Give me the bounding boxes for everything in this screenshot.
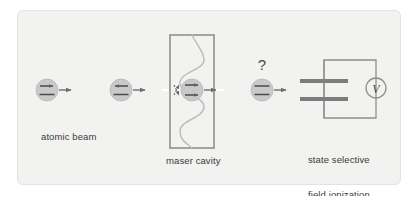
atom-1-body <box>36 79 58 101</box>
caption-state-selective-field-ionization: state selective field ionization <box>308 131 370 196</box>
cavity-transition-dashed-arrows <box>174 85 179 95</box>
figure-canvas: ? V atomic beam maser cavity state selec… <box>0 0 418 196</box>
caption-maser-cavity: maser cavity <box>166 155 221 167</box>
caption-atomic-beam: atomic beam <box>41 131 96 143</box>
question-mark-label: ? <box>258 56 266 73</box>
caption-line-1: state selective <box>308 154 370 166</box>
voltmeter-label: V <box>372 82 381 96</box>
detector-circuit-loop <box>324 60 376 118</box>
atom-2-body <box>110 79 132 101</box>
atom-3-body <box>181 79 203 101</box>
atom-2-group <box>110 79 145 101</box>
capacitor-plate-upper <box>300 79 348 83</box>
field-ionization-detector-group: V <box>300 60 386 118</box>
atom-4-group <box>251 79 286 101</box>
atom-4-body <box>251 79 273 101</box>
capacitor-plate-lower <box>300 97 348 101</box>
atom-1-group <box>36 79 71 101</box>
caption-line-2: field ionization <box>308 189 370 197</box>
